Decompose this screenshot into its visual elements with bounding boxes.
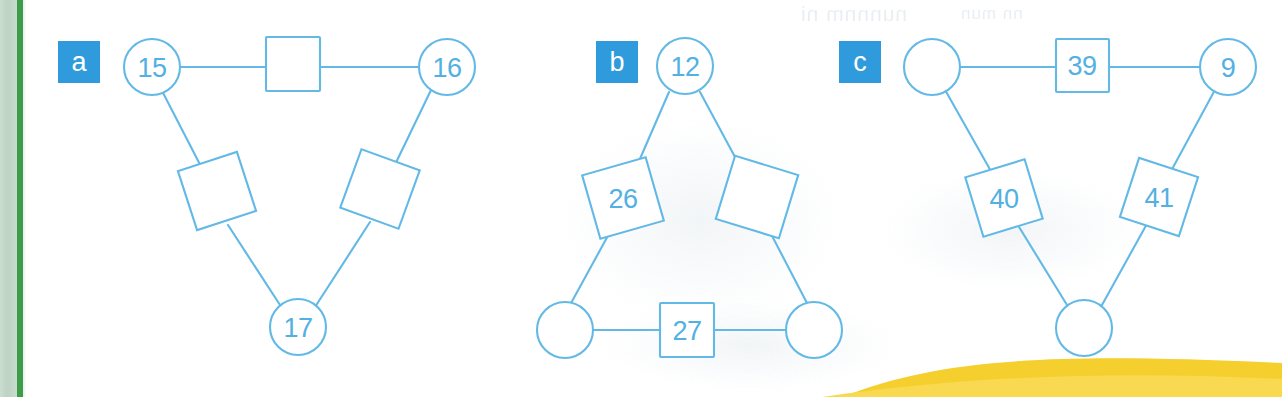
node-circle-15-label: 15	[137, 53, 166, 83]
node-right-diamond	[716, 156, 798, 238]
node-bottom-circle	[1056, 300, 1112, 356]
node-circle-17-label: 17	[283, 313, 312, 343]
edge-top-left-circle-diamond40	[944, 88, 992, 173]
node-square-27-label: 27	[672, 316, 701, 346]
panel-c: c 40 41 39 9	[830, 0, 1282, 397]
node-diamond-41-label: 41	[1144, 183, 1173, 213]
figure-page: nunnnm ni nn mun a 15 16	[0, 0, 1282, 397]
node-diamond-26-label: 26	[608, 184, 637, 214]
panel-label-a: a	[58, 41, 100, 83]
panel-a: a 15 16 17	[0, 0, 520, 397]
edge-right-diamond-bottom-right-circle	[770, 232, 808, 305]
edge-circle12-diamond26	[636, 92, 669, 168]
node-square-39-label: 39	[1067, 51, 1096, 81]
node-top-left-circle	[904, 39, 960, 95]
node-top-square	[266, 37, 320, 91]
node-circle-9-label: 9	[1221, 53, 1236, 83]
node-circle-16-label: 16	[432, 53, 461, 83]
edge-right-diamond-circle17	[315, 222, 370, 307]
node-bottom-left-circle	[537, 302, 593, 358]
node-right-diamond	[340, 149, 419, 228]
panel-label-b: b	[596, 41, 638, 83]
panel-c-graph: 40 41 39 9	[830, 0, 1282, 397]
edge-diamond26-bottom-left-circle	[570, 232, 610, 305]
edge-diamond40-bottom-circle	[1016, 222, 1067, 305]
edge-left-diamond-circle17	[228, 225, 280, 305]
panel-label-c: c	[839, 41, 881, 83]
edge-diamond41-bottom-circle	[1102, 222, 1148, 305]
node-circle-12-label: 12	[670, 52, 699, 82]
node-diamond-40-label: 40	[989, 184, 1018, 214]
edge-circle9-diamond41	[1170, 88, 1216, 173]
node-left-diamond	[178, 152, 256, 230]
